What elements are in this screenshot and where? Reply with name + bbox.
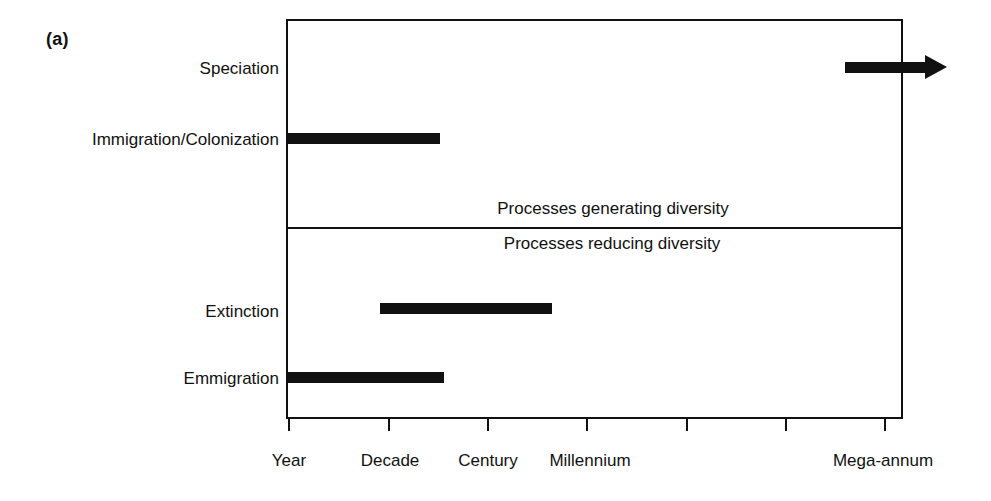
- axis-tick-label-mega-annum: Mega-annum: [833, 452, 933, 469]
- category-label-emmigration: Emmigration: [184, 370, 279, 387]
- panel-label: (a): [46, 29, 69, 50]
- axis-tick-1: [388, 419, 390, 431]
- bar-extinction: [380, 303, 552, 314]
- region-divider: [286, 227, 903, 229]
- axis-tick-6: [884, 419, 886, 431]
- category-label-immigration-colonization: Immigration/Colonization: [92, 131, 279, 148]
- category-label-speciation: Speciation: [200, 60, 279, 77]
- axis-tick-5: [785, 419, 787, 431]
- axis-tick-4: [686, 419, 688, 431]
- axis-tick-label-year: Year: [272, 452, 306, 469]
- axis-tick-label-millennium: Millennium: [549, 452, 630, 469]
- plot-frame: [286, 19, 903, 419]
- bar-emmigration: [287, 372, 444, 383]
- axis-tick-label-decade: Decade: [361, 452, 420, 469]
- figure-panel-a: (a) Speciation Immigration/Colonization …: [0, 0, 991, 501]
- axis-tick-label-century: Century: [458, 452, 518, 469]
- axis-tick-2: [487, 419, 489, 431]
- axis-tick-0: [288, 419, 290, 431]
- region-caption-generating: Processes generating diversity: [497, 200, 729, 217]
- arrow-right-icon: [925, 55, 947, 79]
- region-caption-reducing: Processes reducing diversity: [504, 235, 720, 252]
- bar-immigration-colonization: [287, 133, 440, 144]
- axis-tick-3: [586, 419, 588, 431]
- bar-speciation: [845, 62, 927, 73]
- category-label-extinction: Extinction: [205, 303, 279, 320]
